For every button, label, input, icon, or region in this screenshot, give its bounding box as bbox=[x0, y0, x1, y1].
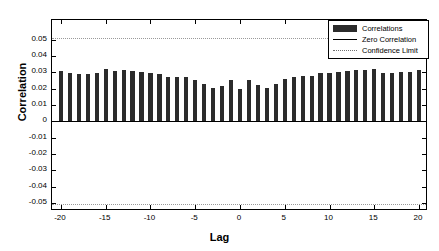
legend-solid-line-icon bbox=[332, 35, 358, 44]
x-tick bbox=[150, 205, 151, 209]
bar bbox=[86, 74, 90, 121]
bar bbox=[104, 69, 108, 121]
x-tick bbox=[61, 20, 62, 24]
legend-label: Zero Correlation bbox=[362, 35, 416, 44]
bar bbox=[336, 72, 340, 121]
x-tick-label: 5 bbox=[269, 213, 299, 222]
bar bbox=[408, 72, 412, 121]
x-tick bbox=[240, 20, 241, 24]
x-tick-label: 20 bbox=[403, 213, 433, 222]
bar bbox=[390, 73, 394, 122]
y-tick bbox=[422, 170, 426, 171]
y-tick bbox=[52, 72, 56, 73]
bar bbox=[184, 77, 188, 121]
bar bbox=[202, 84, 206, 121]
legend-label: Correlations bbox=[362, 24, 402, 33]
x-tick bbox=[240, 205, 241, 209]
bar bbox=[345, 71, 349, 121]
x-tick bbox=[106, 20, 107, 24]
y-tick bbox=[422, 203, 426, 204]
x-tick bbox=[374, 205, 375, 209]
legend[interactable]: Correlations Zero Correlation Confidence… bbox=[328, 20, 429, 59]
y-tick bbox=[52, 170, 56, 171]
y-tick bbox=[52, 89, 56, 90]
x-tick bbox=[285, 20, 286, 24]
bar bbox=[417, 70, 421, 121]
bar bbox=[113, 71, 117, 121]
y-tick-label: -0.04 bbox=[13, 181, 47, 190]
x-tick bbox=[150, 20, 151, 24]
bar bbox=[238, 89, 242, 121]
bar bbox=[372, 69, 376, 121]
bar bbox=[327, 73, 331, 121]
x-tick bbox=[61, 205, 62, 209]
bar bbox=[139, 72, 143, 121]
bar bbox=[130, 71, 134, 121]
legend-patch-icon bbox=[332, 24, 358, 33]
x-tick bbox=[285, 205, 286, 209]
bar bbox=[363, 70, 367, 121]
y-tick bbox=[52, 40, 56, 41]
bar bbox=[399, 72, 403, 121]
y-tick bbox=[52, 154, 56, 155]
bar bbox=[175, 77, 179, 122]
bar bbox=[229, 80, 233, 121]
y-tick bbox=[52, 138, 56, 139]
legend-item-correlations[interactable]: Correlations bbox=[332, 23, 425, 33]
bar bbox=[247, 80, 251, 121]
y-tick bbox=[52, 56, 56, 57]
x-tick-label: -10 bbox=[134, 213, 164, 222]
bar bbox=[211, 88, 215, 121]
legend-item-confidence-limit[interactable]: Confidence Limit bbox=[332, 45, 425, 55]
bar bbox=[193, 80, 197, 122]
x-tick-label: 0 bbox=[224, 213, 254, 222]
bar bbox=[274, 84, 278, 121]
y-tick bbox=[52, 121, 56, 122]
bar bbox=[283, 79, 287, 121]
x-tick-label: -15 bbox=[90, 213, 120, 222]
y-tick bbox=[422, 154, 426, 155]
y-tick bbox=[422, 187, 426, 188]
x-tick-label: 10 bbox=[314, 213, 344, 222]
bar bbox=[157, 74, 161, 122]
x-tick bbox=[330, 205, 331, 209]
bar bbox=[318, 73, 322, 121]
y-tick bbox=[52, 203, 56, 204]
x-tick bbox=[195, 20, 196, 24]
bar bbox=[166, 77, 170, 121]
bar bbox=[122, 70, 126, 121]
y-tick-label: -0.03 bbox=[13, 164, 47, 173]
bar bbox=[77, 74, 81, 121]
bar bbox=[265, 88, 269, 122]
y-tick-label: -0.05 bbox=[13, 197, 47, 206]
figure-canvas: -20-15-10-505101520 0.050.040.030.020.01… bbox=[0, 0, 439, 251]
bar bbox=[354, 70, 358, 121]
bar bbox=[301, 76, 305, 121]
y-tick bbox=[52, 187, 56, 188]
bar bbox=[381, 73, 385, 122]
y-tick bbox=[422, 138, 426, 139]
bar bbox=[292, 77, 296, 122]
x-tick-label: 15 bbox=[358, 213, 388, 222]
x-tick-label: -5 bbox=[179, 213, 209, 222]
legend-label: Confidence Limit bbox=[362, 46, 418, 55]
x-axis-title: Lag bbox=[0, 231, 439, 243]
y-tick bbox=[422, 105, 426, 106]
y-tick bbox=[422, 72, 426, 73]
bar bbox=[59, 71, 63, 121]
y-tick bbox=[422, 121, 426, 122]
y-tick bbox=[422, 89, 426, 90]
bar bbox=[95, 73, 99, 121]
y-tick bbox=[52, 105, 56, 106]
bar bbox=[148, 73, 152, 121]
x-tick bbox=[106, 205, 107, 209]
legend-dotted-line-icon bbox=[332, 46, 358, 55]
x-tick bbox=[195, 205, 196, 209]
x-tick bbox=[419, 205, 420, 209]
bar bbox=[68, 73, 72, 121]
bar bbox=[256, 85, 260, 121]
y-axis-title: Correlation bbox=[16, 32, 28, 152]
legend-item-zero-correlation[interactable]: Zero Correlation bbox=[332, 34, 425, 44]
bar bbox=[310, 76, 314, 121]
x-tick-label: -20 bbox=[45, 213, 75, 222]
